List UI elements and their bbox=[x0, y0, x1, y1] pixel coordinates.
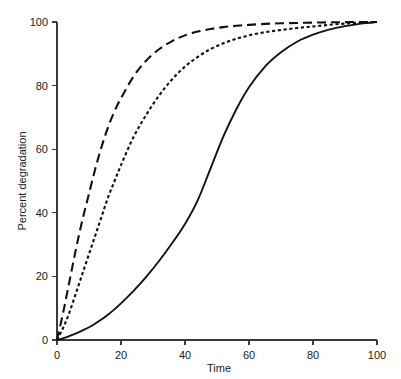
axes bbox=[57, 22, 377, 340]
line-chart: 020406080100020406080100 Time Percent de… bbox=[0, 0, 401, 379]
x-tick-label: 20 bbox=[115, 349, 127, 361]
y-tick-label: 20 bbox=[36, 270, 48, 282]
y-tick-label: 0 bbox=[42, 334, 48, 346]
x-tick-label: 80 bbox=[307, 349, 319, 361]
x-axis-label: Time bbox=[207, 362, 231, 374]
y-axis-label: Percent degradation bbox=[16, 131, 28, 230]
solid-curve bbox=[57, 22, 377, 340]
x-tick-label: 100 bbox=[368, 349, 386, 361]
short-dotted-curve bbox=[57, 22, 377, 340]
y-tick-label: 40 bbox=[36, 207, 48, 219]
data-series bbox=[57, 22, 377, 340]
x-tick-label: 0 bbox=[54, 349, 60, 361]
y-tick-label: 100 bbox=[30, 16, 48, 28]
chart-figure: 020406080100020406080100 Time Percent de… bbox=[0, 0, 401, 379]
y-tick-label: 60 bbox=[36, 143, 48, 155]
axis-tick-labels: 020406080100020406080100 bbox=[30, 16, 387, 361]
axis-ticks bbox=[52, 22, 377, 345]
y-tick-label: 80 bbox=[36, 80, 48, 92]
x-tick-label: 60 bbox=[243, 349, 255, 361]
x-tick-label: 40 bbox=[179, 349, 191, 361]
long-dashed-curve bbox=[57, 22, 377, 340]
